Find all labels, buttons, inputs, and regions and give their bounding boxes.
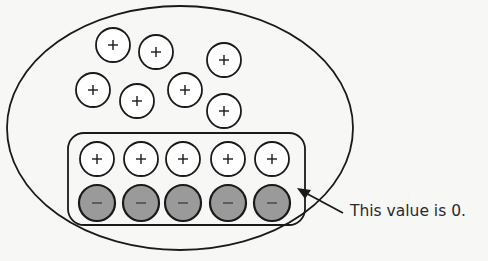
charge-diagram <box>0 0 488 261</box>
negative-charge-icon <box>79 185 115 221</box>
positive-charge-icon <box>255 142 289 176</box>
annotation-label: This value is 0. <box>350 202 466 220</box>
positive-charge-icon <box>168 73 202 107</box>
negative-charge-icon <box>210 185 246 221</box>
positive-charge-icon <box>207 43 241 77</box>
negative-charge-icon <box>123 185 159 221</box>
positive-charge-icon <box>76 73 110 107</box>
positive-charge-icon <box>207 94 241 128</box>
positive-charge-icon <box>166 142 200 176</box>
positive-charge-icon <box>96 28 130 62</box>
negative-charge-icon <box>165 185 201 221</box>
positive-charge-icon <box>80 142 114 176</box>
positive-charge-icon <box>139 35 173 69</box>
positive-charge-icon <box>211 142 245 176</box>
positive-charge-icon <box>120 84 154 118</box>
negative-charge-icon <box>254 185 290 221</box>
arrow-icon <box>297 188 343 213</box>
positive-charge-icon <box>124 142 158 176</box>
